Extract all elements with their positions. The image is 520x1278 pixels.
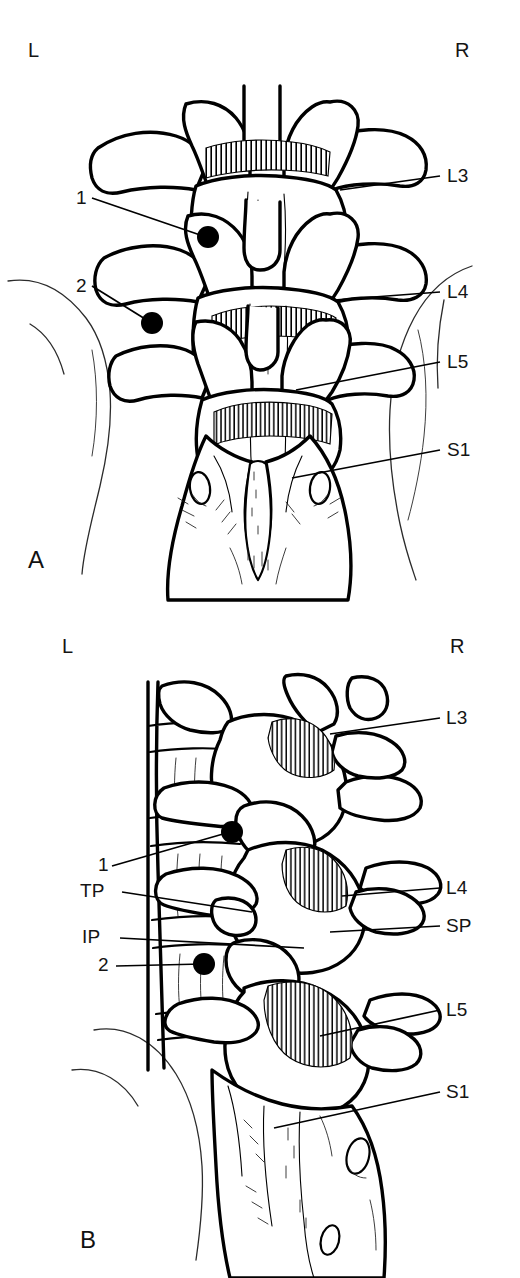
panel-letter-a: A <box>28 548 44 572</box>
panel-a-illustration <box>0 0 520 610</box>
disc-space-l3-l4 <box>206 140 330 178</box>
label-l5-a: L5 <box>447 352 469 371</box>
label-l3-b: L3 <box>446 708 468 727</box>
leader-l3-b <box>330 718 440 734</box>
facet-marker-dot-2 <box>141 312 163 334</box>
figure-page: L R 1 2 L3 L4 L5 S1 A <box>0 0 520 1278</box>
orientation-left-b: L <box>62 636 73 656</box>
label-callout-2-b: 2 <box>98 955 109 974</box>
sacrum-s1 <box>168 436 351 600</box>
label-l4-b: L4 <box>446 878 468 897</box>
orientation-left-a: L <box>28 40 39 60</box>
label-callout-1-b: 1 <box>98 855 109 874</box>
label-callout-2-a: 2 <box>76 276 87 295</box>
label-l5-b: L5 <box>446 1000 468 1019</box>
panel-letter-b: B <box>80 1228 96 1252</box>
label-s1-b: S1 <box>446 1082 470 1101</box>
panel-a: L R 1 2 L3 L4 L5 S1 A <box>0 0 520 610</box>
facet-marker-dot-1 <box>197 226 219 248</box>
panel-b: L R 1 TP IP 2 L3 L4 SP L5 S1 B <box>0 600 520 1278</box>
label-ip-b: IP <box>82 927 100 946</box>
label-tp-b: TP <box>80 881 105 900</box>
leader-callout-1-b <box>112 832 230 866</box>
label-s1-a: S1 <box>447 440 471 459</box>
label-sp-b: SP <box>446 916 472 935</box>
label-l4-a: L4 <box>447 282 469 301</box>
soft-tissue-outline-left <box>8 280 111 574</box>
leader-callout-2-b <box>116 964 202 966</box>
panel-b-illustration <box>0 600 520 1278</box>
orientation-right-b: R <box>450 636 465 656</box>
label-l3-a: L3 <box>447 166 469 185</box>
orientation-right-a: R <box>455 40 470 60</box>
facet-marker-dot-1-b <box>221 821 243 843</box>
label-callout-1-a: 1 <box>76 188 87 207</box>
soft-tissue-outline-right <box>389 266 472 580</box>
